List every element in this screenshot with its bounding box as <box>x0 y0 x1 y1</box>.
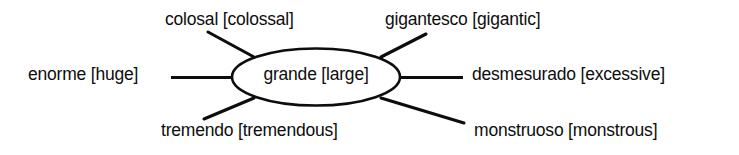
connector-monstruoso <box>381 98 464 123</box>
connector-gigantesco <box>381 34 426 57</box>
branch-label-colosal: colosal [colossal] <box>165 11 294 29</box>
word-web-diagram: grande [large] colosal [colossal] gigant… <box>0 0 739 155</box>
branch-label-tremendo: tremendo [tremendous] <box>161 122 338 140</box>
connector-tremendo <box>204 98 254 119</box>
branch-label-desmesurado: desmesurado [excessive] <box>472 66 665 84</box>
branch-label-gigantesco: gigantesco [gigantic] <box>385 11 540 29</box>
center-node-label: grande [large] <box>232 66 400 84</box>
connector-colosal <box>208 32 254 57</box>
branch-label-monstruoso: monstruoso [monstrous] <box>474 122 657 140</box>
branch-label-enorme: enorme [huge] <box>28 66 138 84</box>
